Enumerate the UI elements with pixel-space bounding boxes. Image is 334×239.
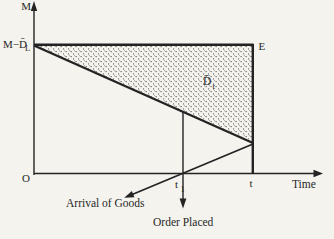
figure-background <box>0 0 334 239</box>
y-axis-label: M <box>21 0 31 12</box>
order-annotation: Order Placed <box>153 216 214 228</box>
upper-level-label-main: M−D̄ <box>3 38 27 50</box>
inventory-diagram: M O M−D̄ L E D̄ t t 1 t Time Arrival of … <box>0 0 334 239</box>
upper-level-label-sub: L <box>25 43 30 53</box>
review-time-label-main: t <box>175 178 178 190</box>
inventory-diagram-figure: M O M−D̄ L E D̄ t t 1 t Time Arrival of … <box>0 0 334 239</box>
origin-label: O <box>22 172 30 184</box>
arrival-annotation: Arrival of Goods <box>66 197 145 209</box>
x-axis-label: Time <box>292 178 316 190</box>
region-label-main: D̄ <box>203 75 211 87</box>
review-time-label-sub: 1 <box>181 184 185 194</box>
corner-label: E <box>259 40 266 52</box>
cycle-end-label: t <box>250 177 253 189</box>
